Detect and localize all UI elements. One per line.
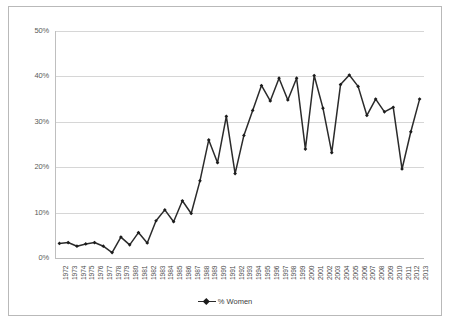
x-axis-tick-label: 1973 bbox=[71, 266, 78, 280]
x-axis-tick-label: 1975 bbox=[88, 266, 95, 280]
x-axis-tick-label: 1974 bbox=[80, 266, 87, 280]
x-axis-tick-label: 1993 bbox=[246, 266, 253, 280]
x-axis-tick-label: 1996 bbox=[273, 266, 280, 280]
x-axis-tick-label: 1978 bbox=[115, 266, 122, 280]
gridline bbox=[55, 31, 424, 32]
x-axis-tick-label: 1997 bbox=[282, 266, 289, 280]
y-axis-tick-label: 0% bbox=[23, 253, 49, 262]
y-axis-line bbox=[55, 31, 56, 258]
x-axis-tick-label: 2013 bbox=[422, 266, 429, 280]
x-axis-tick-label: 2005 bbox=[352, 266, 359, 280]
x-axis-tick-label: 1998 bbox=[290, 266, 297, 280]
gridline bbox=[55, 76, 424, 77]
x-axis-tick-label: 2006 bbox=[361, 266, 368, 280]
x-axis-tick-label: 2001 bbox=[317, 266, 324, 280]
x-axis-tick-label: 1981 bbox=[141, 266, 148, 280]
y-axis-tick-label: 50% bbox=[23, 26, 49, 35]
x-axis-tick-label: 1984 bbox=[167, 266, 174, 280]
gridline bbox=[55, 258, 424, 259]
gridline bbox=[55, 213, 424, 214]
x-axis-tick-label: 1976 bbox=[97, 266, 104, 280]
x-axis-tick-label: 2009 bbox=[387, 266, 394, 280]
x-axis-tick-label: 1980 bbox=[132, 266, 139, 280]
x-axis-tick-label: 2004 bbox=[343, 266, 350, 280]
x-axis-tick-label: 1995 bbox=[264, 266, 271, 280]
y-axis-tick-label: 20% bbox=[23, 162, 49, 171]
x-axis-tick-label: 1977 bbox=[106, 266, 113, 280]
x-axis-tick-label: 2012 bbox=[413, 266, 420, 280]
y-axis-tick-label: 10% bbox=[23, 208, 49, 217]
legend-line-marker-icon bbox=[198, 298, 216, 305]
x-axis-tick-label: 2000 bbox=[308, 266, 315, 280]
x-axis-tick-label: 1999 bbox=[299, 266, 306, 280]
x-axis-tick-label: 1994 bbox=[255, 266, 262, 280]
chart-legend: % Women bbox=[0, 296, 450, 306]
x-axis-tick-label: 1991 bbox=[229, 266, 236, 280]
x-axis-tick-label: 1990 bbox=[220, 266, 227, 280]
x-axis-tick-label: 1988 bbox=[203, 266, 210, 280]
x-axis-tick-label: 2011 bbox=[405, 266, 412, 280]
x-axis-tick-label: 1979 bbox=[123, 266, 130, 280]
x-axis-tick-label: 1985 bbox=[176, 266, 183, 280]
chart-plot-area: 0%10%20%30%40%50% 1972197319741975197619… bbox=[0, 0, 450, 328]
y-axis-tick-label: 40% bbox=[23, 71, 49, 80]
x-axis-tick-label: 1987 bbox=[194, 266, 201, 280]
legend-item-women: % Women bbox=[198, 296, 252, 306]
x-axis-tick-label: 2010 bbox=[396, 266, 403, 280]
x-axis-tick-label: 1972 bbox=[62, 266, 69, 280]
legend-label-women: % Women bbox=[218, 297, 252, 306]
x-axis-tick-label: 1982 bbox=[150, 266, 157, 280]
x-axis-tick-label: 2008 bbox=[378, 266, 385, 280]
x-axis-tick-label: 2003 bbox=[334, 266, 341, 280]
x-axis-tick-label: 1989 bbox=[211, 266, 218, 280]
gridline bbox=[55, 122, 424, 123]
x-axis-tick-label: 1986 bbox=[185, 266, 192, 280]
x-axis-tick-label: 1983 bbox=[159, 266, 166, 280]
x-axis-tick-label: 2002 bbox=[326, 266, 333, 280]
x-axis-tick-label: 1992 bbox=[238, 266, 245, 280]
y-axis-tick-label: 30% bbox=[23, 117, 49, 126]
x-axis-tick-label: 2007 bbox=[369, 266, 376, 280]
gridline bbox=[55, 167, 424, 168]
